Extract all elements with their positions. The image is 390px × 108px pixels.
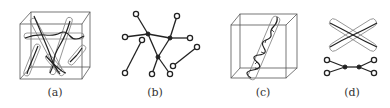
panel-d-diagram xyxy=(324,17,378,75)
panel-a-box xyxy=(20,12,90,79)
panel-d-label: (d) xyxy=(344,86,360,99)
panel-a-label: (a) xyxy=(47,86,62,99)
panel-b-label: (b) xyxy=(147,86,163,99)
polymer-chains xyxy=(25,16,84,74)
tubes xyxy=(23,17,87,77)
panel-b-graph xyxy=(122,11,199,76)
panel-c-label: (c) xyxy=(256,86,271,99)
panel-c-box xyxy=(231,14,297,81)
